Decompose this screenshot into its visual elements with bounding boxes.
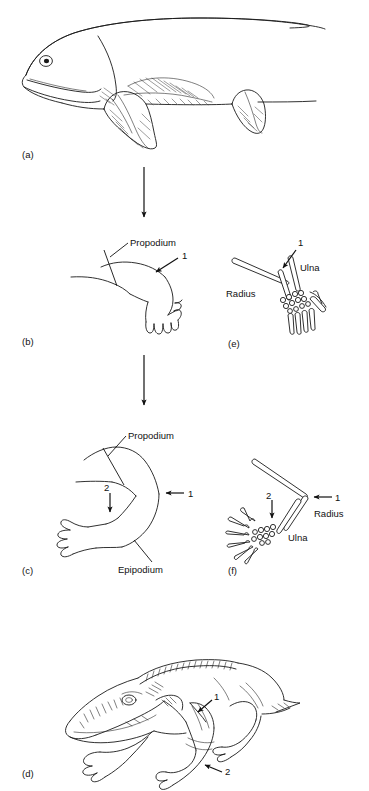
figure-root: (a) Propodium 1 (b): [0, 0, 369, 791]
cheek-hatch: [146, 682, 163, 696]
propodium-leader-b: [110, 243, 128, 257]
panel-label-f: (f): [228, 565, 237, 576]
panel-a-fish: (a): [22, 18, 325, 160]
propodium-leader-c: [108, 436, 126, 456]
label-1-d: 1: [214, 691, 219, 702]
panel-label-d: (d): [22, 768, 34, 779]
label-radius-e: Radius: [226, 288, 256, 299]
panel-e-fin-skeleton: 1 Ulna Radius (e): [226, 237, 326, 349]
label-propodium-c: Propodium: [128, 430, 174, 441]
digits-f: [226, 508, 258, 564]
epipodium-leader-c: [134, 540, 152, 562]
pectoral-fin: [104, 92, 157, 149]
label-ulna-f: Ulna: [288, 532, 308, 543]
label-1-b: 1: [182, 250, 187, 261]
label-epipodium-c: Epipodium: [118, 564, 163, 575]
anatomical-figure: (a) Propodium 1 (b): [0, 0, 369, 791]
panel-c-tetrapod-limb: Propodium Epipodium 1 2 (c): [22, 430, 193, 576]
label-2-f: 2: [266, 490, 271, 501]
marker-1-arrow-b: [156, 258, 178, 272]
marker-1-arrow-d: [198, 700, 212, 712]
panel-f-limb-skeleton: 1 Radius Ulna 2 (f): [226, 459, 344, 576]
panel-label-c: (c): [22, 565, 33, 576]
fish-pupil: [44, 59, 49, 63]
label-1-f: 1: [335, 492, 340, 503]
label-1-e: 1: [298, 237, 303, 248]
panel-label-e: (e): [228, 338, 240, 349]
label-1-c: 1: [188, 488, 193, 499]
carpals-f: [252, 524, 276, 545]
marker-2-arrow-d: [205, 765, 222, 772]
label-2-c: 2: [104, 482, 109, 493]
label-ulna-e: Ulna: [300, 262, 320, 273]
front-limb: [83, 732, 152, 782]
label-radius-f: Radius: [314, 508, 344, 519]
propodium-tick-c: [103, 448, 124, 485]
label-propodium-b: Propodium: [130, 237, 176, 248]
dorsal-scutes: [146, 661, 232, 681]
bone-ulna-e: [288, 256, 300, 291]
panel-label-a: (a): [22, 149, 34, 160]
panel-b-fin-limb: Propodium 1 (b): [22, 237, 187, 347]
hind-limb-far: [213, 702, 261, 762]
hind-limb: [156, 703, 214, 790]
tetrapod-eye: [122, 695, 136, 705]
bone-humerus-f: [252, 459, 308, 498]
panel-label-b: (b): [22, 336, 34, 347]
operculum-hatch: [100, 88, 115, 105]
pelvic-fin: [232, 90, 266, 133]
digits-e: [288, 291, 326, 334]
label-2-d: 2: [225, 766, 230, 777]
body-shading: [186, 678, 263, 750]
panel-d-early-tetrapod: 1 2 (d): [22, 660, 300, 790]
tetrapod-pupil: [126, 698, 133, 703]
